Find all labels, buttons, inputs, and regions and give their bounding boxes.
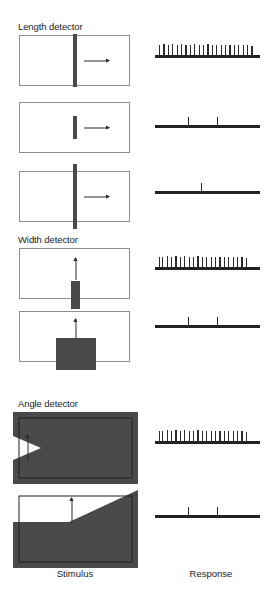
response-trace-length-3 bbox=[155, 176, 260, 194]
spike bbox=[246, 432, 247, 442]
spike bbox=[224, 431, 225, 442]
section-title-width-detector: Width detector bbox=[18, 234, 78, 245]
spike bbox=[206, 257, 207, 268]
spike bbox=[219, 257, 220, 268]
spike bbox=[184, 256, 185, 268]
response-trace-angle-2 bbox=[155, 500, 260, 518]
spike bbox=[180, 431, 181, 442]
spike bbox=[189, 431, 190, 442]
spike bbox=[211, 257, 212, 268]
motion-arrow-up bbox=[69, 498, 75, 524]
axis-label-stimulus: Stimulus bbox=[44, 568, 106, 579]
spike bbox=[225, 45, 226, 56]
spike bbox=[159, 431, 160, 442]
motion-arrow-right bbox=[84, 125, 109, 131]
spike bbox=[211, 431, 212, 442]
spike bbox=[159, 257, 160, 268]
spike bbox=[171, 257, 172, 268]
spike bbox=[215, 257, 216, 268]
spike bbox=[181, 44, 182, 56]
spike bbox=[167, 430, 168, 442]
spike bbox=[212, 45, 213, 56]
spike bbox=[217, 507, 218, 516]
stimulus-bar-short bbox=[73, 116, 77, 139]
response-trace-width-1 bbox=[155, 252, 260, 270]
stimulus-bar-full-height bbox=[73, 34, 77, 87]
spike bbox=[246, 258, 247, 268]
trace-baseline bbox=[155, 515, 260, 518]
section-title-angle-detector: Angle detector bbox=[18, 398, 78, 409]
spike bbox=[229, 45, 230, 56]
spike bbox=[189, 257, 190, 268]
response-trace-length-2 bbox=[155, 110, 260, 128]
spike bbox=[228, 257, 229, 268]
response-trace-angle-1 bbox=[155, 426, 260, 444]
spike bbox=[193, 257, 194, 268]
spike bbox=[184, 430, 185, 442]
spike bbox=[185, 45, 186, 56]
trace-baseline bbox=[155, 325, 260, 328]
spike bbox=[217, 317, 218, 326]
spike bbox=[190, 45, 191, 56]
motion-arrow-up bbox=[73, 319, 79, 338]
spike bbox=[162, 431, 163, 442]
spike bbox=[159, 45, 160, 56]
spike bbox=[251, 46, 252, 56]
spike bbox=[168, 45, 169, 56]
motion-arrow-right bbox=[84, 58, 109, 64]
spike bbox=[202, 257, 203, 268]
spike bbox=[237, 431, 238, 442]
motion-arrow-right bbox=[84, 194, 109, 200]
spike bbox=[203, 45, 204, 56]
spike bbox=[241, 257, 242, 268]
spike bbox=[233, 431, 234, 442]
spike bbox=[188, 317, 189, 326]
spike bbox=[188, 507, 189, 516]
spike bbox=[206, 431, 207, 442]
stimulus-narrow-bar bbox=[71, 281, 80, 309]
spike bbox=[188, 117, 189, 126]
spike bbox=[172, 44, 173, 56]
spike bbox=[193, 431, 194, 442]
spike bbox=[221, 45, 222, 56]
spike bbox=[233, 257, 234, 268]
spike bbox=[167, 256, 168, 268]
motion-arrow-up bbox=[25, 435, 31, 461]
spike bbox=[180, 257, 181, 268]
spike bbox=[175, 256, 176, 268]
spike bbox=[171, 431, 172, 442]
spike bbox=[207, 44, 208, 56]
spike bbox=[219, 431, 220, 442]
spike bbox=[241, 431, 242, 442]
spike bbox=[243, 45, 244, 56]
response-trace-length-1 bbox=[155, 40, 260, 58]
section-title-length-detector: Length detector bbox=[18, 21, 83, 32]
trace-baseline bbox=[155, 191, 260, 194]
spike bbox=[175, 430, 176, 442]
spike bbox=[224, 257, 225, 268]
spike bbox=[216, 45, 217, 56]
stimulus-v-notch-shape bbox=[13, 412, 138, 484]
stimulus-wide-block bbox=[56, 338, 96, 370]
trace-baseline bbox=[155, 125, 260, 128]
spike bbox=[163, 44, 164, 56]
response-trace-width-2 bbox=[155, 310, 260, 328]
spike bbox=[177, 45, 178, 56]
stimulus-bar-overextended bbox=[73, 164, 77, 229]
spike bbox=[247, 45, 248, 56]
spike bbox=[197, 256, 198, 268]
spike bbox=[162, 257, 163, 268]
feature-detector-figure: Length detector Width detector bbox=[0, 0, 279, 594]
spike bbox=[215, 431, 216, 442]
stimulus-diagonal-ramp-shape bbox=[13, 490, 138, 568]
spike bbox=[194, 44, 195, 56]
spike bbox=[234, 45, 235, 56]
spike bbox=[238, 45, 239, 56]
spike bbox=[228, 431, 229, 442]
spike bbox=[201, 183, 202, 192]
spike bbox=[199, 45, 200, 56]
spike bbox=[237, 257, 238, 268]
spike bbox=[217, 117, 218, 126]
spike bbox=[197, 430, 198, 442]
axis-label-response: Response bbox=[178, 568, 244, 579]
